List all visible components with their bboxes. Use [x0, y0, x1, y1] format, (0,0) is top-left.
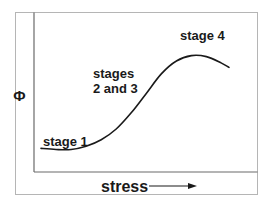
x-direction-arrow — [149, 183, 197, 189]
annotation-2-and-3: 2 and 3 — [93, 81, 138, 96]
annotation-stage-1: stage 1 — [43, 134, 88, 149]
annotation-stage-4: stage 4 — [180, 28, 226, 43]
y-axis-label: Φ — [13, 87, 25, 104]
annotation-stages: stages — [93, 66, 134, 81]
chart: Φ stress stage 1 stages 2 and 3 stage 4 — [0, 0, 270, 205]
x-axis-label: stress — [101, 178, 148, 195]
